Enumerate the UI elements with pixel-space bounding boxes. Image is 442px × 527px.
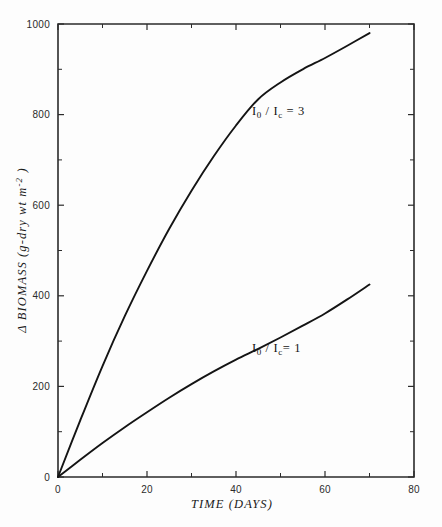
biomass-time-chart: 020406080 02004006008001000 I0 / Ic = 3 … bbox=[0, 0, 442, 527]
x-axis-title: TIME (DAYS) bbox=[191, 497, 273, 511]
x-tick-label: 40 bbox=[230, 484, 242, 495]
chart-background bbox=[0, 0, 442, 527]
x-tick-label: 60 bbox=[319, 484, 331, 495]
x-tick-label: 0 bbox=[55, 484, 61, 495]
y-axis-title: Δ BIOMASS (g-dry wt m-2 ) bbox=[14, 167, 29, 333]
y-tick-label: 200 bbox=[32, 381, 50, 392]
figure-root: 020406080 02004006008001000 I0 / Ic = 3 … bbox=[0, 0, 442, 527]
y-tick-label: 600 bbox=[32, 200, 50, 211]
y-tick-label: 800 bbox=[32, 109, 50, 120]
y-tick-label: 1000 bbox=[27, 19, 51, 30]
x-tick-label: 20 bbox=[141, 484, 153, 495]
y-tick-label: 0 bbox=[44, 472, 50, 483]
x-tick-label: 80 bbox=[408, 484, 420, 495]
y-tick-label: 400 bbox=[32, 290, 50, 301]
